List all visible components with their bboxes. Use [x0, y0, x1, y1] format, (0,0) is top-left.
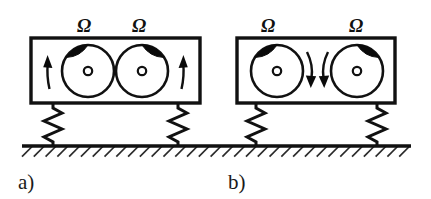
panel-a-right-spring: [169, 103, 187, 146]
panel-a-left-rotor: [62, 45, 114, 97]
panel-b-label: b): [228, 170, 246, 194]
panel-b-omega-label-left: Ω: [261, 15, 275, 36]
panel-b-right-spring: [368, 103, 386, 146]
figure-root: Ω Ω: [0, 0, 431, 199]
panel-b-left-spring: [247, 103, 265, 146]
panel-b-left-rotor: [251, 45, 303, 97]
panel-b-omega-label-right: Ω: [349, 15, 363, 36]
panel-a-omega-label-right: Ω: [132, 15, 146, 36]
panel-a-left-rotor-hub: [84, 67, 92, 75]
panel-a-label: a): [18, 170, 34, 194]
panel-b-left-rotor-hub: [273, 67, 281, 75]
mechanical-diagram-canvas: Ω Ω: [0, 0, 431, 199]
panel-a: Ω Ω: [18, 15, 200, 194]
fixed-ground: [22, 146, 411, 157]
panel-b-right-rotor-hub: [353, 67, 361, 75]
panel-a-left-spring: [44, 103, 62, 146]
panel-b: Ω Ω: [228, 15, 395, 194]
panel-a-right-rotor-hub: [138, 67, 146, 75]
panel-a-right-rotor: [116, 45, 168, 97]
panel-a-omega-label-left: Ω: [77, 15, 91, 36]
panel-b-right-rotor: [331, 45, 383, 97]
